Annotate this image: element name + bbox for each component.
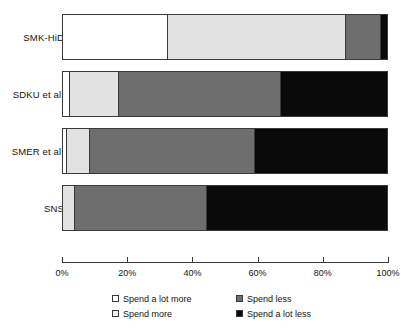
legend-item-spend-more: Spend more [112, 306, 230, 321]
stacked-bar-chart: SMK-HiD SDKU et al. SMER et al. [0, 0, 404, 332]
x-axis-tick-label-1: 20% [118, 268, 136, 278]
bar-segment-spend-a-lot-less [206, 186, 387, 230]
legend-label: Spend less [247, 294, 292, 304]
legend-label: Spend a lot less [247, 309, 311, 319]
legend-label: Spend a lot more [123, 294, 192, 304]
x-axis-tick-label-3: 60% [249, 268, 267, 278]
chart-legend: Spend a lot more Spend less Spend more S… [112, 291, 362, 321]
x-axis-tick [62, 257, 63, 263]
table-row: SMK-HiD [0, 14, 404, 60]
bar-category-label-1: SDKU et al. [13, 89, 64, 100]
x-axis-tick [258, 257, 259, 263]
plot-area: SMK-HiD SDKU et al. SMER et al. [0, 0, 404, 248]
x-axis-tick-label-4: 80% [314, 268, 332, 278]
x-axis-tick-label-2: 40% [183, 268, 201, 278]
bar-segment-spend-less [74, 186, 205, 230]
x-axis: 0% 20% 40% 60% 80% 100% [62, 262, 388, 263]
bar-segment-spend-a-lot-less [254, 129, 387, 173]
x-axis-tick [388, 257, 389, 263]
legend-swatch-icon [112, 295, 119, 302]
x-axis-tick-label-0: 0% [55, 268, 68, 278]
bar-track-1 [62, 71, 388, 117]
legend-swatch-icon [236, 295, 243, 302]
table-row: SMER et al. [0, 128, 404, 174]
bar-segment-spend-less [89, 129, 254, 173]
bar-segment-spend-more [69, 72, 118, 116]
bar-segment-spend-less [345, 15, 381, 59]
bar-segment-spend-a-lot-more [63, 15, 167, 59]
legend-label: Spend more [123, 309, 172, 319]
bar-segment-spend-a-lot-less [280, 72, 387, 116]
bar-track-2 [62, 128, 388, 174]
x-axis-tick [127, 257, 128, 263]
x-axis-tick-label-5: 100% [376, 268, 399, 278]
bar-category-label-2: SMER et al. [12, 146, 64, 157]
legend-swatch-icon [112, 310, 119, 317]
bar-category-label-3: SNS [44, 203, 64, 214]
bar-segment-spend-more [66, 129, 89, 173]
legend-item-spend-a-lot-more: Spend a lot more [112, 291, 230, 306]
legend-item-spend-a-lot-less: Spend a lot less [236, 306, 354, 321]
bar-segment-spend-less [118, 72, 280, 116]
bar-segment-spend-more [63, 186, 74, 230]
table-row: SNS [0, 185, 404, 231]
legend-swatch-icon [236, 310, 243, 317]
bar-track-3 [62, 185, 388, 231]
x-axis-tick [192, 257, 193, 263]
caption-fragment [6, 324, 66, 331]
bar-category-label-0: SMK-HiD [23, 32, 64, 43]
bar-track-0 [62, 14, 388, 60]
bar-segment-spend-more [167, 15, 345, 59]
table-row: SDKU et al. [0, 71, 404, 117]
x-axis-tick [323, 257, 324, 263]
legend-item-spend-less: Spend less [236, 291, 354, 306]
bar-segment-spend-a-lot-less [380, 15, 386, 59]
